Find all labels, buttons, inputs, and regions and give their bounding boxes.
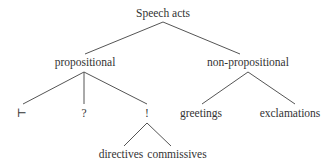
edge-exclamation_mark-to-commissives (147, 123, 171, 146)
edge-exclamation_mark-to-directives (124, 123, 147, 146)
node-propositional: propositional (55, 56, 116, 69)
edge-non_propositional-to-greetings (202, 72, 248, 104)
tree-edges (23, 22, 295, 146)
edge-root-to-propositional (85, 22, 163, 54)
speech-acts-tree: Speech acts propositional non-propositio… (0, 0, 335, 166)
node-root: Speech acts (136, 7, 190, 20)
node-question: ? (81, 107, 86, 119)
edge-root-to-non_propositional (163, 22, 240, 54)
node-non-propositional: non-propositional (207, 56, 289, 69)
node-exclamation-mark: ! (145, 107, 149, 119)
node-assertion-turnstile: ⊢ (17, 107, 27, 119)
node-exclamations: exclamations (260, 107, 321, 119)
edge-propositional-to-exclamation_mark (84, 72, 147, 104)
node-directives: directives (99, 148, 144, 160)
node-greetings: greetings (180, 107, 223, 120)
edge-non_propositional-to-exclamations (248, 72, 295, 104)
edge-propositional-to-assertion (23, 72, 84, 104)
node-commissives: commissives (147, 148, 207, 160)
